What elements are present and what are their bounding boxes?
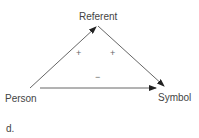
plus-sign-right: + (110, 48, 115, 59)
arrow-person-to-referent (30, 27, 96, 88)
minus-sign-bottom: − (95, 72, 100, 83)
person-label: Person (5, 93, 37, 104)
symbol-label: Symbol (158, 92, 191, 103)
referent-label: Referent (79, 11, 117, 22)
figure-caption: d. (6, 123, 14, 134)
plus-sign-left: + (76, 48, 81, 59)
arrow-referent-to-symbol (98, 26, 164, 86)
